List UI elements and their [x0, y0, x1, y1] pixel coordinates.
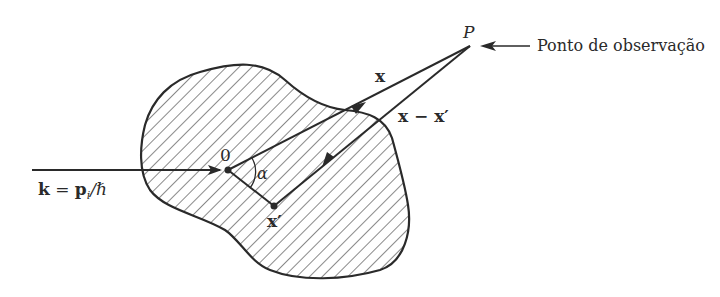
label-p-momentum: p: [75, 179, 87, 199]
label-hbar: /ℏ: [88, 179, 107, 199]
label-x-minus-xprime: x − x′: [398, 106, 449, 126]
label-x: x: [375, 66, 386, 86]
label-origin: 0: [220, 145, 231, 165]
label-xprime: x′: [267, 211, 282, 231]
label-wave-vector: k = pi/ℏ: [38, 179, 107, 202]
scattering-region: [141, 65, 409, 279]
scattering-diagram: P Ponto de observação x x − x′ 0 α x′ k …: [0, 0, 720, 297]
label-p: P: [462, 22, 475, 42]
label-observation-point: Ponto de observação: [537, 36, 705, 55]
label-equals: =: [50, 179, 75, 199]
label-alpha: α: [257, 164, 268, 183]
